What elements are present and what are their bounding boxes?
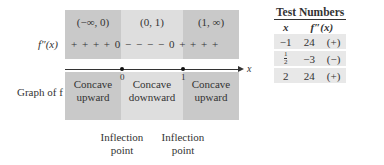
column-header-fpp: f″(x) [297, 20, 346, 35]
inflection-line: Inflection [157, 131, 209, 144]
point-marker [120, 67, 124, 71]
inflection-line: point [157, 144, 209, 157]
graph-label: Graph of f [17, 86, 63, 98]
inflection-line: point [96, 144, 148, 157]
table-row: 2 24 (+) [274, 67, 346, 84]
concavity-line: upward [183, 91, 239, 104]
cell-sign: (+) [321, 34, 346, 50]
cell-x: 2 [274, 67, 297, 84]
table-row: 1 2 −3 (−) [274, 50, 346, 67]
concavity-label: Concave upward [183, 78, 239, 104]
inflection-label: Inflection point [96, 131, 148, 157]
cell-value: −3 [297, 50, 320, 67]
interval-label: (0, 1) [121, 16, 183, 28]
concavity-line: Concave [65, 78, 121, 91]
second-derivative-label: f″(x) [38, 38, 58, 50]
interval-label: (1, ∞) [183, 16, 239, 28]
test-numbers-table: Test Numbers x f″(x) −1 24 (+) 1 2 −3 (−… [274, 6, 346, 85]
point-marker [181, 67, 185, 71]
cell-x: −1 [274, 34, 297, 50]
fraction: 1 2 [284, 51, 288, 66]
concavity-line: upward [65, 91, 121, 104]
cell-value: 24 [297, 34, 320, 50]
sign-chart: + + + + 0 − − − − 0 + + + + [71, 38, 219, 50]
table-title: Test Numbers [274, 6, 346, 20]
cell-sign: (−) [321, 50, 346, 67]
concavity-label: Concave downward [121, 78, 183, 104]
concavity-line: Concave [183, 78, 239, 91]
column-header-x: x [274, 20, 297, 35]
cell-x: 1 2 [274, 50, 297, 67]
concavity-line: downward [121, 91, 183, 104]
fraction-denominator: 2 [284, 59, 288, 66]
concavity-label: Concave upward [65, 78, 121, 104]
concavity-line: Concave [121, 78, 183, 91]
interval-label: (−∞, 0) [65, 16, 121, 28]
axis-label: x [247, 63, 251, 74]
x-axis-line [65, 69, 239, 70]
cell-sign: (+) [321, 67, 346, 84]
cell-value: 24 [297, 67, 320, 84]
table-row: −1 24 (+) [274, 34, 346, 50]
inflection-line: Inflection [96, 131, 148, 144]
inflection-label: Inflection point [157, 131, 209, 157]
axis-arrow-icon [238, 66, 244, 72]
